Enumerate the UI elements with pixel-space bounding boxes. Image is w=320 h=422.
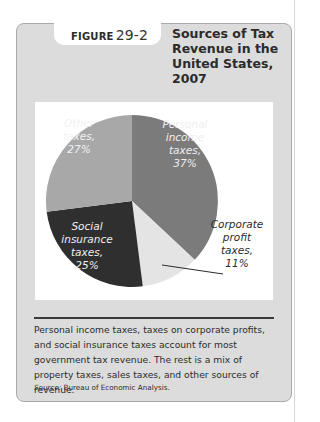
slice-label-line: taxes, bbox=[145, 144, 225, 157]
slice-label-line: 25% bbox=[47, 259, 127, 272]
slice-label-line: Other bbox=[39, 117, 119, 130]
figure-label-word: FIGURE bbox=[71, 31, 114, 42]
figure-number: 29-2 bbox=[116, 27, 149, 43]
slice-label-line: taxes, bbox=[47, 246, 127, 259]
slice-label-line: 37% bbox=[145, 157, 225, 170]
chart-area: Personalincometaxes,37%Corporateprofitta… bbox=[35, 102, 273, 300]
slice-label-line: taxes, bbox=[39, 130, 119, 143]
slice-label-line: taxes, bbox=[197, 244, 277, 257]
slice-label-other-taxes: Othertaxes,27% bbox=[39, 117, 119, 156]
slice-label-line: income bbox=[145, 131, 225, 144]
page-edge bbox=[294, 0, 295, 422]
slice-label-line: 11% bbox=[197, 257, 277, 270]
slice-label-personal-income-taxes: Personalincometaxes,37% bbox=[145, 118, 225, 170]
slice-label-line: insurance bbox=[47, 233, 127, 246]
slice-label-line: profit bbox=[197, 231, 277, 244]
slice-label-line: Social bbox=[47, 220, 127, 233]
figure-label: FIGURE29-2 bbox=[71, 27, 148, 43]
slice-label-line: Personal bbox=[145, 118, 225, 131]
slice-label-line: 27% bbox=[39, 143, 119, 156]
source-text: Bureau of Economic Analysis. bbox=[64, 383, 170, 392]
source-label: Source: bbox=[34, 383, 61, 392]
caption-divider bbox=[34, 317, 274, 319]
figure-source: Source: Bureau of Economic Analysis. bbox=[34, 383, 274, 392]
figure-title: Sources of Tax Revenue in the United Sta… bbox=[172, 26, 284, 86]
slice-label-social-insurance-taxes: Socialinsurancetaxes,25% bbox=[47, 220, 127, 272]
slice-label-line: Corporate bbox=[197, 218, 277, 231]
slice-label-corporate-profit-taxes: Corporateprofittaxes,11% bbox=[197, 218, 277, 270]
